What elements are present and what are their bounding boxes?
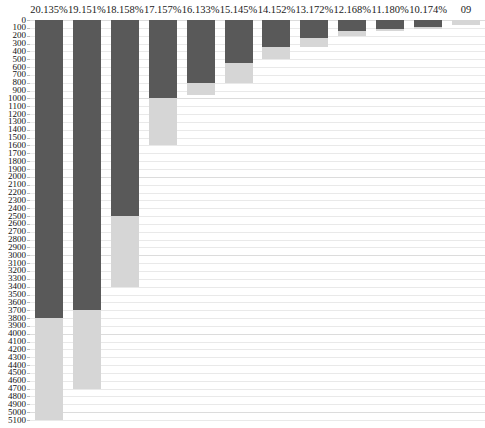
- y-axis: 0100200300400500600700800900100011001200…: [0, 20, 30, 420]
- bar-segment-light[interactable]: [35, 318, 63, 420]
- bar-segment-dark[interactable]: [262, 20, 290, 47]
- bar-segment-light[interactable]: [338, 31, 366, 36]
- bar-segment-light[interactable]: [414, 27, 442, 28]
- bar-segment-dark[interactable]: [35, 20, 63, 318]
- bar-column[interactable]: [376, 20, 404, 420]
- bar-segment-light[interactable]: [452, 20, 480, 25]
- category-label: 10.174%: [409, 3, 447, 16]
- category-label: 18.158%: [106, 3, 144, 16]
- gridline: [30, 420, 485, 421]
- chart-container: 20.135%19.151%18.158%17.157%16.133%15.14…: [0, 0, 485, 428]
- bar-segment-dark[interactable]: [73, 20, 101, 310]
- bar-column[interactable]: [187, 20, 215, 420]
- bar-column[interactable]: [452, 20, 480, 420]
- bar-segment-light[interactable]: [111, 216, 139, 287]
- bar-column[interactable]: [414, 20, 442, 420]
- category-label: 20.135%: [30, 3, 68, 16]
- bar-segment-dark[interactable]: [376, 20, 404, 29]
- bar-column[interactable]: [225, 20, 253, 420]
- category-label: 14.152%: [258, 3, 296, 16]
- bar-segment-dark[interactable]: [149, 20, 177, 98]
- bar-segment-light[interactable]: [376, 29, 404, 31]
- bar-column[interactable]: [149, 20, 177, 420]
- y-tick-label: 5100: [8, 416, 26, 425]
- bar-segment-light[interactable]: [73, 310, 101, 388]
- bar-segment-light[interactable]: [300, 38, 328, 47]
- plot-area: [30, 20, 485, 420]
- category-label: 16.133%: [182, 3, 220, 16]
- bar-segment-dark[interactable]: [187, 20, 215, 83]
- bar-segment-light[interactable]: [187, 83, 215, 95]
- bar-column[interactable]: [73, 20, 101, 420]
- category-label: 17.157%: [144, 3, 182, 16]
- bar-segment-dark[interactable]: [338, 20, 366, 31]
- bar-column[interactable]: [338, 20, 366, 420]
- category-label: 09: [461, 3, 472, 16]
- bar-column[interactable]: [262, 20, 290, 420]
- category-label-row: 20.135%19.151%18.158%17.157%16.133%15.14…: [0, 0, 485, 20]
- bar-segment-light[interactable]: [262, 47, 290, 59]
- category-label: 19.151%: [68, 3, 106, 16]
- bar-column[interactable]: [35, 20, 63, 420]
- category-label: 11.180%: [372, 3, 409, 16]
- category-label: 13.172%: [296, 3, 334, 16]
- bar-segment-dark[interactable]: [414, 20, 442, 27]
- bar-segment-light[interactable]: [225, 63, 253, 83]
- bar-segment-dark[interactable]: [111, 20, 139, 216]
- category-label: 12.168%: [333, 3, 371, 16]
- bar-column[interactable]: [300, 20, 328, 420]
- bar-segment-light[interactable]: [149, 98, 177, 145]
- category-label: 15.145%: [220, 3, 258, 16]
- bar-column[interactable]: [111, 20, 139, 420]
- bar-segment-dark[interactable]: [300, 20, 328, 38]
- bar-segment-dark[interactable]: [225, 20, 253, 63]
